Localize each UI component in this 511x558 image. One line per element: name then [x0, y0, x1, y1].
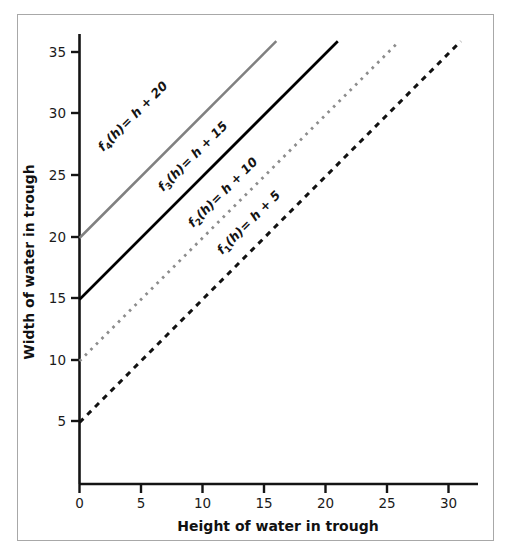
y-tick-label-15: 15 [49, 290, 66, 306]
series-label-f4-rest: (h)= h + 20 [103, 78, 171, 146]
series-lines-group [80, 41, 461, 422]
x-axis-tick-labels: 0 5 10 15 20 25 30 [75, 495, 457, 511]
y-tick-label-5: 5 [57, 413, 66, 429]
x-tick-label-0: 0 [75, 495, 84, 511]
x-tick-label-15: 15 [255, 495, 272, 511]
line-chart: 35 30 25 20 15 10 5 0 5 10 15 20 25 30 [0, 0, 511, 558]
x-tick-label-30: 30 [440, 495, 457, 511]
y-tick-label-35: 35 [49, 44, 66, 60]
x-tick-label-20: 20 [317, 495, 334, 511]
x-tick-label-5: 5 [137, 495, 146, 511]
x-axis-title: Height of water in trough [177, 518, 378, 534]
x-tick-label-10: 10 [194, 495, 211, 511]
y-tick-label-25: 25 [49, 167, 66, 183]
x-axis-ticks [80, 484, 449, 493]
y-tick-label-30: 30 [49, 105, 66, 121]
y-tick-label-20: 20 [49, 229, 66, 245]
y-tick-label-10: 10 [49, 352, 66, 368]
series-line-f1 [80, 41, 461, 422]
series-labels-group: f4(h)= h + 20 f3(h)= h + 15 f2(h)= h + 1… [95, 78, 285, 259]
series-label-f1-rest: (h)= h + 5 [222, 187, 284, 249]
y-axis-title: Width of water in trough [21, 164, 37, 360]
series-label-f3-rest: (h)= h + 15 [163, 118, 231, 186]
x-tick-label-25: 25 [378, 495, 395, 511]
figure-container: 35 30 25 20 15 10 5 0 5 10 15 20 25 30 [0, 0, 511, 558]
y-axis-tick-labels: 35 30 25 20 15 10 5 [49, 44, 66, 429]
series-line-f3 [80, 41, 338, 299]
series-line-f2 [80, 41, 400, 361]
series-label-f4: f4(h)= h + 20 [95, 78, 173, 156]
